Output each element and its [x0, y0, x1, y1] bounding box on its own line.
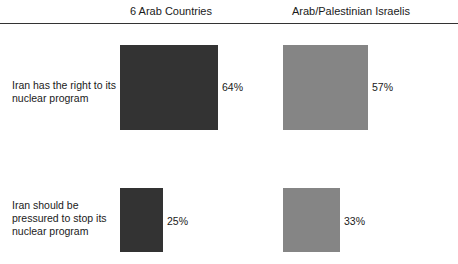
column-header-arab-palestinian-israelis: Arab/Palestinian Israelis — [276, 5, 426, 18]
header-divider — [0, 23, 458, 24]
bar-row1-6-arab-countries — [120, 188, 163, 252]
bar-row0-arab-palestinian-israelis — [283, 45, 368, 130]
bar-value-row0-6-arab-countries: 64% — [222, 81, 243, 93]
bar-row1-arab-palestinian-israelis — [283, 188, 340, 252]
bar-row0-6-arab-countries — [120, 45, 218, 130]
row-label-pressured-to-stop: Iran should be pressured to stop its nuc… — [12, 199, 116, 238]
row-label-right-to-nuclear-program: Iran has the right to its nuclear progra… — [12, 79, 116, 105]
bar-value-row1-6-arab-countries: 25% — [167, 215, 188, 227]
bar-value-row1-arab-palestinian-israelis: 33% — [344, 215, 365, 227]
column-header-6-arab-countries: 6 Arab Countries — [96, 5, 246, 18]
bar-value-row0-arab-palestinian-israelis: 57% — [372, 81, 393, 93]
bar-chart-figure: 6 Arab Countries Arab/Palestinian Israel… — [0, 0, 458, 264]
